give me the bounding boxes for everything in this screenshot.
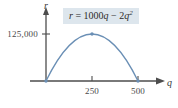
point-origin (44, 79, 47, 82)
y-axis-label: r (44, 0, 48, 11)
equation-term2-exponent: 2 (129, 9, 133, 17)
revenue-parabola-figure: r q 125,000 250 500 r = 1000q − 2q2 (0, 0, 178, 108)
x-axis-label: q (167, 77, 172, 88)
equation-lhs: r (69, 10, 73, 21)
point-right-root (136, 79, 139, 82)
equation-annotation: r = 1000q − 2q2 (63, 8, 139, 24)
equation-term1-var: q (104, 10, 109, 21)
x-axis-arrow-icon (156, 78, 165, 85)
equation-term1-coef: 1000 (84, 10, 104, 21)
equation-equals: = (75, 10, 81, 21)
y-tick-label-125000: 125,000 (7, 29, 38, 39)
x-tick-label-500: 500 (124, 86, 152, 96)
x-tick-label-250: 250 (78, 86, 106, 96)
point-vertex (90, 32, 93, 35)
x-axis (30, 76, 165, 85)
y-axis (42, 7, 50, 82)
equation-minus: − (111, 10, 117, 21)
parabola-curve (46, 34, 138, 81)
